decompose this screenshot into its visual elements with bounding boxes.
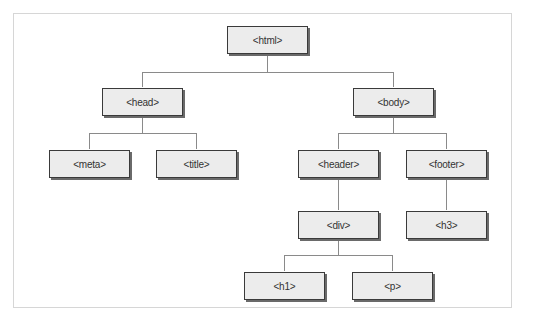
connector	[338, 178, 339, 210]
connector	[392, 255, 393, 271]
connector	[338, 239, 339, 255]
connector	[338, 133, 447, 134]
node-p: <p>	[352, 272, 433, 300]
connector	[446, 178, 447, 210]
node-div: <div>	[298, 211, 379, 239]
connector	[142, 116, 143, 133]
connector	[284, 255, 393, 256]
connector	[89, 133, 90, 149]
connector	[446, 133, 447, 149]
node-html: <html>	[227, 26, 308, 54]
node-meta: <meta>	[49, 150, 130, 178]
connector	[393, 72, 394, 87]
connector	[142, 72, 394, 73]
connector	[267, 54, 268, 72]
connector	[393, 116, 394, 133]
node-body: <body>	[353, 88, 434, 116]
node-header: <header>	[298, 150, 379, 178]
connector	[89, 133, 197, 134]
connector	[142, 72, 143, 87]
connector	[338, 133, 339, 149]
connector	[284, 255, 285, 271]
node-title: <title>	[156, 150, 237, 178]
node-h3: <h3>	[406, 211, 487, 239]
node-head: <head>	[102, 88, 183, 116]
connector	[196, 133, 197, 149]
node-footer: <footer>	[406, 150, 487, 178]
node-h1: <h1>	[244, 272, 325, 300]
